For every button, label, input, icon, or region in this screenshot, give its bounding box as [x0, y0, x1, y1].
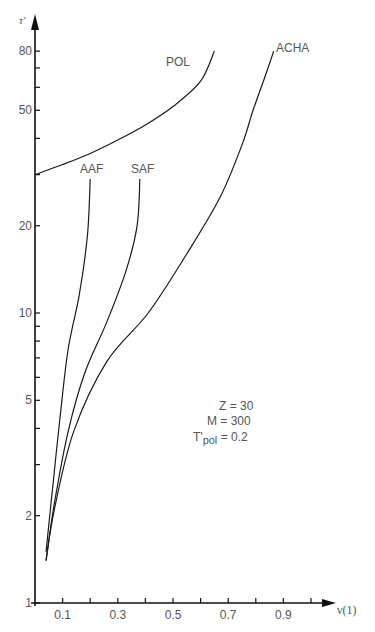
param-t: T'pol = 0.2 — [193, 430, 248, 446]
y-tick-label: 1 — [25, 596, 32, 610]
y-tick-label: 50 — [19, 103, 33, 117]
x-axis-arrow-icon — [322, 599, 336, 607]
curve-aaf — [46, 179, 90, 552]
parameter-annotation: Z = 30 M = 300 T'pol = 0.2 — [193, 399, 254, 446]
param-t-main: T' — [193, 430, 203, 444]
y-tick-label: 2 — [25, 509, 32, 523]
chart: 125102050800.10.30.50.70.9 τ' ν(1) POL A… — [0, 0, 375, 632]
y-tick-label: 20 — [19, 219, 33, 233]
series-label-pol: POL — [166, 55, 190, 69]
x-tick-label: 0.3 — [109, 608, 126, 622]
series-label-acha: ACHA — [276, 41, 309, 55]
curves — [35, 51, 274, 561]
x-axis-label: ν(1) — [337, 603, 356, 617]
param-z: Z = 30 — [219, 399, 254, 413]
x-tick-label: 0.5 — [165, 608, 182, 622]
y-axis-arrow-icon — [31, 14, 39, 30]
y-tick-label: 10 — [19, 306, 33, 320]
x-tick-label: 0.9 — [275, 608, 292, 622]
series-label-saf: SAF — [131, 162, 154, 176]
curve-pol — [35, 51, 214, 175]
param-m: M = 300 — [207, 414, 251, 428]
x-tick-label: 0.1 — [54, 608, 71, 622]
series-label-aaf: AAF — [80, 162, 103, 176]
param-t-sub: pol — [203, 434, 218, 446]
y-tick-label: 5 — [25, 393, 32, 407]
y-axis-label: τ' — [19, 14, 26, 26]
curve-acha — [46, 51, 274, 561]
param-t-val: = 0.2 — [217, 430, 248, 444]
y-tick-label: 80 — [19, 44, 33, 58]
axes: 125102050800.10.30.50.70.9 — [19, 14, 336, 622]
curve-saf — [46, 179, 140, 561]
x-tick-label: 0.7 — [220, 608, 237, 622]
